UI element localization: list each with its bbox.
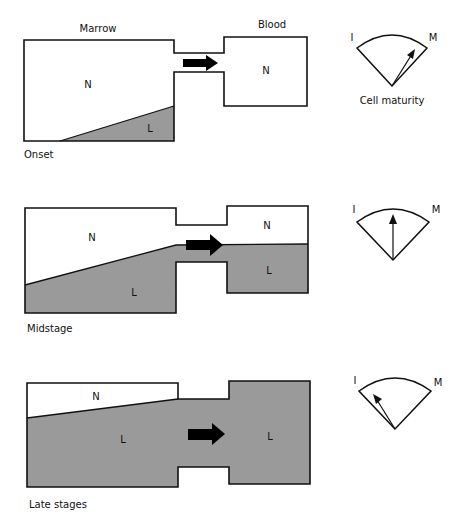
leukemic-region (25, 244, 308, 313)
panel-midstage: N L N L Midstage I M (25, 204, 440, 334)
stage-label: Midstage (27, 323, 73, 334)
blood-leukemic-label: L (267, 431, 273, 442)
blood-leukemic-label: L (266, 265, 272, 276)
marrow-leukemic-label: L (147, 123, 153, 134)
gauge-mature-label: M (432, 204, 441, 215)
gauge-immature-label: I (354, 375, 357, 386)
maturity-gauge-icon: I M Cell maturity (351, 32, 438, 106)
marrow-normal-label: N (84, 79, 91, 90)
blood-header: Blood (258, 19, 286, 30)
gauge-caption: Cell maturity (360, 95, 425, 106)
panel-late-stages: N L L Late stages I M (27, 375, 442, 510)
marrow-leukemic-label: L (120, 434, 126, 445)
stage-label: Late stages (29, 499, 87, 510)
marrow-normal-label: N (92, 391, 99, 402)
blood-normal-label: N (262, 65, 269, 76)
gauge-mature-label: M (429, 32, 438, 43)
leukemia-progression-diagram: Marrow Blood N L N Onset I M Cell maturi… (0, 0, 467, 520)
gauge-mature-label: M (434, 377, 443, 388)
marrow-header: Marrow (80, 23, 117, 34)
flow-arrow (183, 55, 218, 71)
maturity-gauge-icon: I M (354, 375, 443, 429)
marrow-leukemic-label: L (131, 287, 137, 298)
blood-normal-label: N (263, 220, 270, 231)
gauge-immature-label: I (353, 204, 356, 215)
marrow-normal-label: N (88, 232, 95, 243)
gauge-immature-label: I (351, 32, 354, 43)
maturity-gauge-icon: I M (353, 204, 441, 260)
stage-label: Onset (24, 149, 54, 160)
panel-onset: Marrow Blood N L N Onset I M Cell maturi… (24, 19, 437, 160)
